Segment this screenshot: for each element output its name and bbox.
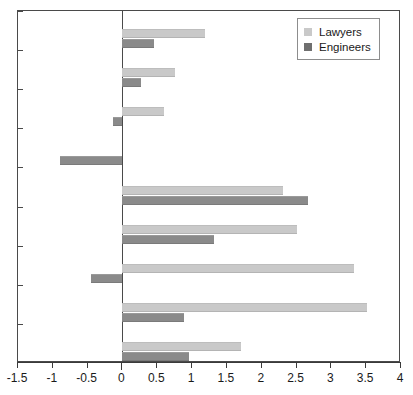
y-axis-tick (18, 167, 23, 168)
bar-engineers-voting-rate (122, 352, 188, 361)
x-axis-tick-label: 2.5 (287, 371, 304, 385)
x-axis-tick-label: 1 (188, 371, 195, 385)
y-axis-tick (18, 50, 23, 51)
x-axis-tick (191, 362, 192, 368)
bar-engineers-socioeconomic-status (122, 196, 308, 205)
y-axis-tick (18, 128, 23, 129)
x-axis-tick-label: 3 (327, 371, 334, 385)
chart-legend: Lawyers Engineers (297, 18, 380, 60)
x-axis-tick-label: 0 (118, 371, 125, 385)
x-axis-tick-label: 2 (257, 371, 264, 385)
bar-engineers-internal-efficacy (91, 274, 122, 283)
legend-item: Engineers (304, 39, 371, 54)
x-axis-tick-label: -1.5 (7, 371, 28, 385)
y-axis-tick (18, 11, 23, 12)
bar-engineers-media-attentiveness (122, 235, 214, 244)
bar-engineers-civic-engagement (122, 313, 184, 322)
bar-engineers-organization-prominence (113, 117, 122, 126)
bar-lawyers-number-of-organizations (122, 29, 204, 38)
x-axis-tick-label: 0.5 (148, 371, 165, 385)
x-axis-tick (87, 362, 88, 368)
bar-lawyers-socioeconomic-status (122, 186, 283, 195)
x-axis-tick-label: -1 (46, 371, 57, 385)
y-axis-tick (18, 246, 23, 247)
x-axis-line (17, 362, 400, 363)
x-axis-tick (400, 362, 401, 368)
bar-lawyers-media-attentiveness (122, 225, 297, 234)
x-axis-tick (226, 362, 227, 368)
y-axis-tick (18, 285, 23, 286)
legend-item: Lawyers (304, 24, 371, 39)
bar-lawyers-civic-engagement (122, 303, 366, 312)
y-axis-tick (18, 207, 23, 208)
x-axis-tick (365, 362, 366, 368)
bar-lawyers-voting-rate (122, 342, 240, 351)
bar-engineers-number-of-political-staff (122, 78, 141, 87)
y-axis-tick (18, 89, 23, 90)
x-axis-tick-label: 4 (397, 371, 404, 385)
x-axis-tick-label: -0.5 (76, 371, 97, 385)
x-axis-tick (330, 362, 331, 368)
plot-area (17, 10, 400, 362)
x-axis-tick-label: 3.5 (357, 371, 374, 385)
x-axis-tick (261, 362, 262, 368)
legend-item-label: Engineers (319, 41, 371, 53)
bar-lawyers-internal-efficacy (122, 264, 354, 273)
x-axis-tick (296, 362, 297, 368)
x-axis-tick-label: 1.5 (218, 371, 235, 385)
bar-engineers-number-of-organizations (122, 39, 154, 48)
bar-engineers-population-size (60, 156, 123, 165)
x-axis-tick (52, 362, 53, 368)
bar-lawyers-organization-prominence (122, 107, 164, 116)
x-axis-tick (156, 362, 157, 368)
dark-gray-swatch-icon (304, 43, 312, 51)
bar-lawyers-number-of-political-staff (122, 68, 175, 77)
legend-item-label: Lawyers (319, 26, 362, 38)
chart-figure: Number of organizationsNumber of politic… (0, 0, 413, 395)
x-axis-tick (121, 362, 122, 370)
x-axis-tick (17, 362, 18, 368)
y-axis-tick (18, 324, 23, 325)
light-gray-swatch-icon (304, 28, 312, 36)
